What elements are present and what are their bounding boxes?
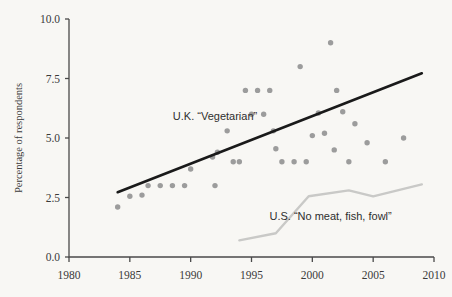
data-point <box>267 88 272 93</box>
data-point <box>237 159 242 164</box>
data-point <box>297 64 302 69</box>
data-point <box>255 88 260 93</box>
x-tick-label: 1980 <box>58 269 81 281</box>
data-point <box>158 183 163 188</box>
data-point <box>273 146 278 151</box>
data-point <box>352 121 357 126</box>
data-point <box>334 88 339 93</box>
data-point <box>340 109 345 114</box>
x-tick-label: 2005 <box>362 269 385 281</box>
data-point <box>145 183 150 188</box>
data-point <box>127 194 132 199</box>
data-point <box>364 140 369 145</box>
x-tick-label: 2010 <box>423 269 446 281</box>
data-point <box>279 159 284 164</box>
y-axis-label-text: Percentage of respondents <box>13 83 24 193</box>
x-tick-label: 2000 <box>301 269 324 281</box>
us-series-label: U.S. “No meat, fish, fowl” <box>269 210 392 222</box>
data-point <box>243 88 248 93</box>
y-tick-label: 7.5 <box>46 73 61 85</box>
x-tick-label: 1995 <box>240 269 263 281</box>
data-point <box>310 133 315 138</box>
data-point <box>170 183 175 188</box>
x-tick-label: 1990 <box>179 269 202 281</box>
data-point <box>231 159 236 164</box>
data-point <box>346 159 351 164</box>
uk-series-label: U.K. “Vegetarian” <box>173 110 258 122</box>
data-point <box>322 131 327 136</box>
data-point <box>188 166 193 171</box>
data-point <box>115 204 120 209</box>
data-point <box>304 159 309 164</box>
x-tick-label: 1985 <box>118 269 141 281</box>
chart-figure: 0.02.55.07.510.0 19801985199019952000200… <box>0 0 452 297</box>
y-tick-label: 10.0 <box>40 13 60 25</box>
data-point <box>328 40 333 45</box>
data-point <box>401 135 406 140</box>
data-point <box>332 147 337 152</box>
data-point <box>261 112 266 117</box>
data-point <box>291 159 296 164</box>
y-axis-title: Percentage of respondents <box>13 83 24 193</box>
data-point <box>139 192 144 197</box>
data-point <box>383 159 388 164</box>
data-point <box>212 183 217 188</box>
y-tick-label: 0.0 <box>46 251 61 263</box>
y-tick-label: 5.0 <box>46 132 61 144</box>
data-point <box>182 183 187 188</box>
y-tick-label: 2.5 <box>46 192 61 204</box>
chart-svg: 0.02.55.07.510.0 19801985199019952000200… <box>0 0 452 297</box>
data-point <box>224 128 229 133</box>
